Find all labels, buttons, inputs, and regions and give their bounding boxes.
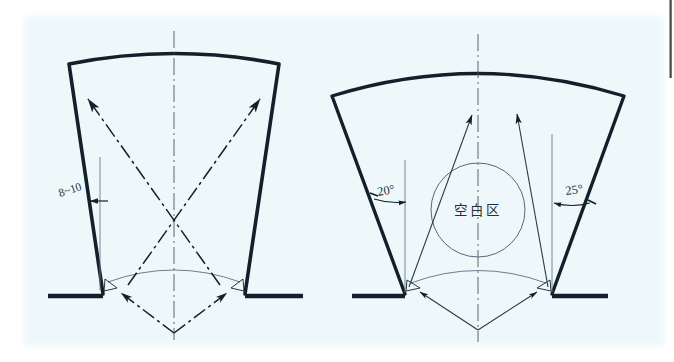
right-groove-notch-right <box>537 280 551 291</box>
angle-arc-left <box>374 199 406 203</box>
left-sector-diagram: 8~10 <box>48 31 303 340</box>
angle-label-left: 20° <box>376 182 396 199</box>
right-sector-diagram: 20° 25° 空白区 <box>332 34 624 342</box>
technical-drawing: 8~10 <box>0 0 674 362</box>
page-edge-line <box>669 0 672 78</box>
right-beam-right <box>517 114 548 287</box>
right-root-arc <box>411 271 546 284</box>
angle-label-right: 25° <box>564 182 583 198</box>
right-beam-left <box>409 115 472 287</box>
scanned-page: 8~10 <box>0 0 674 362</box>
left-beam-up-right <box>128 99 260 285</box>
right-beam-down-left <box>420 292 478 330</box>
left-beam-down-left <box>121 293 174 333</box>
left-beam-down-right <box>174 293 227 333</box>
thickness-label: 8~10 <box>57 180 83 199</box>
blank-zone-label: 空白区 <box>454 202 502 218</box>
right-beam-down-right <box>478 292 537 330</box>
left-beam-up-left <box>88 99 220 285</box>
right-groove-notch-left <box>406 280 420 291</box>
